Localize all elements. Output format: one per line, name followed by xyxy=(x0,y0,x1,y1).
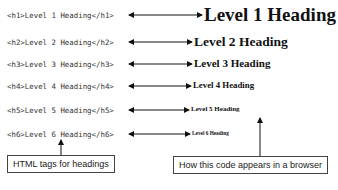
rendered-h6: Level 6 Heading xyxy=(192,130,229,136)
code-h6: <h6>Level 6 Heading</h6> xyxy=(7,130,114,139)
rendered-h5: Level 5 Heading xyxy=(191,105,240,113)
code-h5: <h5>Level 5 Heading</h5> xyxy=(7,106,114,115)
code-h1: <h1>Level 1 Heading</h1> xyxy=(7,11,114,20)
rendered-h4: Level 4 Heading xyxy=(193,80,254,90)
code-h3: <h3>Level 3 Heading</h3> xyxy=(7,60,114,69)
code-h2: <h2>Level 2 Heading</h2> xyxy=(7,38,114,47)
callout-html-tags: HTML tags for headings xyxy=(7,155,115,173)
callout-browser-appearance: How this code appears in a browser xyxy=(173,156,328,174)
rendered-h1: Level 1 Heading xyxy=(204,4,336,26)
code-h4: <h4>Level 4 Heading</h4> xyxy=(7,82,114,91)
rendered-h2: Level 2 Heading xyxy=(194,34,288,50)
rendered-h3: Level 3 Heading xyxy=(194,57,270,69)
